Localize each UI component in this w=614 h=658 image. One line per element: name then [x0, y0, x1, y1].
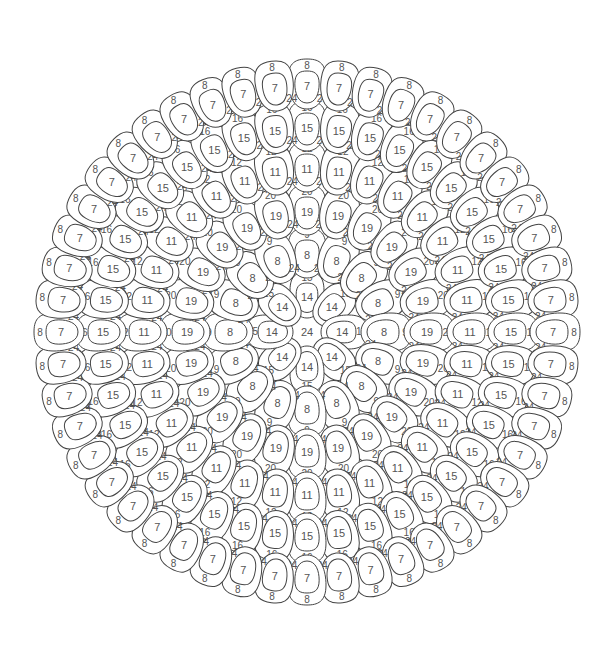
inner-number-label: 15	[393, 144, 405, 156]
inner-number-label: 14	[301, 361, 313, 373]
inner-number-label: 11	[239, 477, 250, 489]
inner-number-label: 11	[364, 477, 375, 489]
outer-number-label: 8	[535, 460, 541, 471]
outer-number-label: 8	[58, 429, 64, 440]
inner-number-label: 19	[361, 430, 373, 442]
outer-number-label: 8	[339, 591, 345, 602]
inner-number-label: 7	[66, 390, 72, 402]
outer-number-label: 8	[171, 95, 177, 106]
inner-number-label: 15	[301, 122, 313, 134]
inner-number-label: 8	[358, 272, 364, 284]
inner-number-label: 7	[109, 176, 115, 188]
inner-number-label: 7	[77, 420, 83, 432]
inner-number-label: 15	[495, 389, 507, 401]
inner-number-label: 7	[130, 152, 136, 164]
inner-number-label: 15	[502, 358, 514, 370]
inner-number-label: 7	[272, 570, 278, 582]
inner-number-label: 15	[107, 389, 119, 401]
outer-number-label: 8	[73, 460, 79, 471]
inner-number-label: 8	[375, 297, 381, 309]
outer-number-label: 8	[92, 489, 98, 500]
inner-number-label: 11	[269, 486, 280, 498]
inner-number-label: 14	[326, 301, 338, 313]
outer-number-label: 8	[269, 591, 275, 602]
inner-number-label: 7	[304, 572, 310, 584]
inner-number-label: 11	[464, 326, 475, 338]
inner-number-label: 7	[454, 131, 460, 143]
outer-number-label: 8	[493, 515, 499, 526]
inner-number-label: 15	[466, 206, 478, 218]
inner-number-label: 7	[91, 203, 97, 215]
inner-number-label: 7	[304, 80, 310, 92]
inner-number-label: 15	[421, 491, 433, 503]
inner-number-label: 8	[227, 326, 233, 338]
outer-number-label: 8	[569, 361, 575, 372]
inner-number-label: 11	[392, 462, 403, 474]
inner-number-label: 11	[461, 358, 472, 370]
inner-number-label: 8	[375, 355, 381, 367]
outer-number-label: 8	[304, 594, 310, 605]
inner-number-label: 19	[421, 326, 433, 338]
inner-number-label: 7	[91, 449, 97, 461]
inner-number-label: 8	[381, 326, 387, 338]
outer-number-label: 8	[438, 95, 444, 106]
inner-number-label: 15	[181, 491, 193, 503]
inner-number-label: 15	[301, 530, 313, 542]
inner-number-label: 19	[270, 442, 282, 454]
inner-number-label: 7	[427, 113, 433, 125]
inner-number-label: 8	[304, 249, 310, 261]
gap-number-label: 24	[289, 263, 301, 274]
outer-number-label: 8	[235, 69, 241, 80]
inner-number-label: 11	[392, 190, 403, 202]
outer-number-label: 8	[339, 62, 345, 73]
inner-number-label: 7	[181, 539, 187, 551]
inner-number-label: 19	[332, 210, 344, 222]
inner-number-label: 11	[141, 294, 152, 306]
outer-number-label: 8	[467, 115, 473, 126]
inner-number-label: 11	[211, 190, 222, 202]
outer-number-label: 8	[467, 538, 473, 549]
inner-number-label: 15	[364, 520, 376, 532]
outer-number-label: 8	[373, 69, 379, 80]
inner-number-label: 19	[216, 411, 228, 423]
inner-number-label: 7	[368, 564, 374, 576]
outer-number-label: 8	[171, 558, 177, 569]
color-by-number-mandala: 1415141514151415141514151415141589248924…	[0, 0, 614, 658]
inner-number-label: 11	[452, 388, 463, 400]
inner-number-label: 7	[240, 564, 246, 576]
inner-number-label: 14	[336, 326, 348, 338]
inner-number-label: 19	[386, 411, 398, 423]
gap-number-label: 24	[286, 135, 298, 146]
inner-number-label: 7	[398, 99, 404, 111]
outer-number-label: 8	[46, 396, 52, 407]
inner-number-label: 11	[239, 175, 250, 187]
inner-number-label: 11	[301, 163, 312, 175]
outer-number-label: 8	[58, 224, 64, 235]
inner-number-label: 15	[483, 419, 495, 431]
inner-number-label: 19	[181, 326, 193, 338]
inner-number-label: 7	[60, 358, 66, 370]
inner-number-label: 11	[141, 358, 152, 370]
inner-number-label: 11	[364, 175, 375, 187]
inner-number-label: 19	[185, 357, 197, 369]
inner-number-label: 7	[154, 131, 160, 143]
inner-number-label: 7	[531, 232, 537, 244]
inner-number-label: 19	[216, 241, 228, 253]
inner-number-label: 7	[368, 88, 374, 100]
inner-number-label: 19	[241, 430, 253, 442]
inner-number-label: 8	[333, 397, 339, 409]
inner-number-label: 7	[272, 82, 278, 94]
inner-number-label: 7	[499, 176, 505, 188]
inner-number-label: 11	[417, 211, 428, 223]
inner-number-label: 11	[151, 388, 162, 400]
inner-number-label: 7	[542, 390, 548, 402]
inner-number-label: 8	[233, 355, 239, 367]
inner-number-label: 8	[233, 297, 239, 309]
outer-number-label: 8	[115, 515, 121, 526]
inner-number-label: 7	[478, 500, 484, 512]
outer-number-label: 8	[373, 584, 379, 595]
inner-number-label: 14	[301, 291, 313, 303]
inner-number-label: 11	[166, 417, 177, 429]
inner-number-label: 15	[502, 294, 514, 306]
outer-number-label: 8	[73, 193, 79, 204]
